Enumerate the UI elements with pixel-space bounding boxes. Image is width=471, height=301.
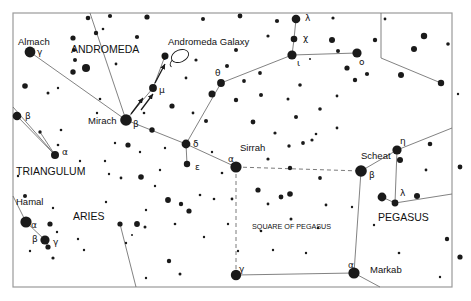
field-star-105 (310, 138, 313, 141)
field-star-58 (57, 144, 60, 147)
star-lambda-and (292, 15, 301, 24)
greek-label-delta-andromedae: δ (193, 139, 199, 149)
field-star-73 (56, 231, 58, 233)
field-star-104 (301, 141, 305, 145)
star-mirach (120, 114, 132, 126)
star-name-almach: Almach (18, 36, 50, 47)
greek-label-lambda-pegasi: λ (400, 188, 406, 198)
field-star-26 (234, 48, 238, 52)
field-star-80 (145, 209, 147, 211)
greek-label-gamma-pegasi: γ (239, 264, 245, 274)
greek-label-nu-andromedae: ν (162, 52, 167, 62)
field-star-37 (398, 72, 404, 78)
field-star-89 (167, 259, 171, 263)
field-star-64 (120, 177, 123, 180)
star-alpha-tri (51, 151, 59, 159)
field-star-103 (287, 144, 290, 147)
field-star-121 (398, 252, 401, 255)
field-star-94 (179, 273, 182, 276)
field-star-81 (186, 208, 191, 213)
greek-label-lambda-andromedae: λ (305, 13, 311, 23)
field-star-62 (149, 127, 154, 132)
star-delta-and (182, 140, 191, 149)
greek-label-beta-arietis: β (32, 234, 38, 244)
field-star-60 (125, 142, 130, 147)
star-lambda-peg (392, 200, 399, 207)
field-star-115 (425, 169, 428, 172)
field-star-95 (145, 277, 147, 279)
field-star-28 (309, 58, 311, 60)
field-star-129 (104, 160, 106, 162)
field-star-36 (234, 98, 238, 102)
field-star-1 (108, 14, 112, 18)
greek-label-eta-pegasi: η (400, 136, 406, 146)
field-star-75 (51, 256, 54, 259)
field-star-86 (131, 234, 133, 236)
field-star-51 (318, 107, 322, 111)
field-star-91 (227, 223, 229, 225)
field-star-78 (117, 221, 122, 226)
field-star-3 (201, 17, 205, 21)
field-star-43 (99, 98, 102, 101)
star-epsilon-and (184, 161, 190, 167)
field-star-15 (135, 35, 139, 39)
star-mu-and (149, 84, 157, 92)
field-star-88 (125, 242, 127, 244)
greek-label-omicron-andromedae: ο (359, 57, 365, 67)
star-name-hamal: Hamal (16, 196, 43, 207)
field-star-97 (255, 187, 260, 192)
star-name-markab: Markab (370, 264, 402, 275)
field-star-66 (164, 147, 166, 149)
field-star-5 (275, 19, 279, 23)
field-star-114 (373, 224, 375, 226)
greek-label-theta-andromedae: θ (215, 68, 221, 78)
field-star-83 (199, 194, 202, 197)
field-star-125 (96, 112, 98, 114)
field-star-109 (305, 252, 307, 254)
field-star-65 (108, 173, 110, 175)
field-star-50 (294, 115, 298, 119)
field-star-61 (139, 151, 141, 153)
greek-label-beta-pegasi-scheat: β (369, 170, 375, 180)
field-star-110 (272, 249, 274, 251)
field-star-107 (325, 204, 328, 207)
star-name-scheat: Scheat (361, 150, 391, 161)
field-star-116 (428, 142, 433, 147)
field-star-54 (315, 133, 318, 136)
star-beta-ari (40, 235, 49, 244)
field-star-74 (77, 238, 79, 240)
field-star-22 (115, 63, 118, 66)
field-star-117 (458, 165, 463, 170)
field-star-98 (279, 195, 284, 200)
field-star-42 (57, 87, 59, 89)
field-star-53 (273, 131, 276, 134)
field-star-2 (144, 14, 149, 19)
field-star-87 (174, 223, 177, 226)
field-star-106 (318, 176, 322, 180)
object-label-andromeda-galaxy: Andromeda Galaxy (168, 36, 250, 47)
field-star-72 (47, 221, 52, 226)
field-star-67 (165, 197, 171, 203)
field-star-29 (336, 49, 340, 53)
greek-label-alpha-arietis: α (31, 220, 37, 230)
field-star-111 (290, 218, 293, 221)
constellation-label-aries: ARIES (73, 210, 105, 222)
star-name-mirach: Mirach (88, 115, 117, 126)
greek-label-beta-andromedae: β (133, 119, 139, 129)
greek-label-alpha-andromedae-sirrah: α (228, 154, 234, 164)
field-star-24 (185, 77, 188, 80)
field-star-27 (258, 71, 262, 75)
field-star-118 (445, 237, 449, 241)
field-star-40 (22, 83, 28, 89)
field-star-18 (373, 38, 377, 42)
field-star-8 (421, 33, 427, 39)
field-star-25 (209, 91, 216, 98)
field-star-126 (211, 151, 213, 153)
field-star-127 (159, 169, 161, 171)
field-star-99 (287, 191, 293, 197)
field-star-57 (38, 130, 41, 133)
field-star-34 (242, 79, 246, 83)
greek-label-gamma-andromedae: γ (37, 47, 43, 57)
constellation-label-square-of-pegasus: SQUARE OF PEGASUS (252, 222, 331, 231)
field-star-14 (94, 31, 98, 35)
